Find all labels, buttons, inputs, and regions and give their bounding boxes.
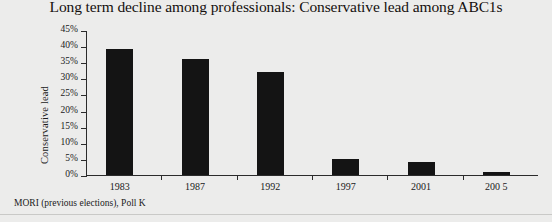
x-axis-tick-mark	[312, 176, 313, 180]
bar	[257, 72, 284, 175]
y-axis-tick-label: 15%	[61, 121, 78, 131]
bar	[106, 49, 133, 175]
x-axis-label: 2001	[386, 181, 456, 192]
y-axis-tick-label: 35%	[61, 56, 78, 66]
x-axis-label: 1983	[85, 181, 155, 192]
x-axis-label: 1987	[160, 181, 230, 192]
chart-axes: 0%5%10%15%20%25%30%35%40%45%	[86, 31, 538, 176]
y-axis-tick-label: 5%	[65, 153, 78, 163]
bar	[332, 159, 359, 175]
bar-series	[86, 30, 538, 175]
x-axis-label: 200 5	[461, 181, 531, 192]
y-axis-tick-label: 40%	[61, 40, 78, 50]
y-axis-tick-label: 25%	[61, 88, 78, 98]
y-axis-tick-label: 45%	[61, 24, 78, 34]
x-axis-tick-mark	[161, 176, 162, 180]
x-axis-tick-mark	[387, 176, 388, 180]
source-note: MORI (previous elections), Poll K	[14, 198, 146, 208]
chart-plot-area: Conservative lead 0%5%10%15%20%25%30%35%…	[0, 18, 552, 203]
x-axis-label: 1992	[235, 181, 305, 192]
x-axis-tick-mark	[237, 176, 238, 180]
y-axis-title: Conservative lead	[39, 70, 53, 180]
y-axis-tick-label: 30%	[61, 72, 78, 82]
x-axis-label: 1997	[311, 181, 381, 192]
y-axis-tick-label: 0%	[65, 169, 78, 179]
bottom-divider	[0, 214, 552, 215]
bar	[408, 162, 435, 175]
y-axis-tick-label: 10%	[61, 137, 78, 147]
x-axis-tick-mark	[463, 176, 464, 180]
y-axis-tick-mark	[81, 176, 86, 177]
bar	[483, 172, 510, 175]
bar	[182, 59, 209, 175]
page-title: Long term decline among professionals: C…	[0, 0, 552, 16]
y-axis-tick-label: 20%	[61, 105, 78, 115]
x-axis-labels: 19831987199219972001200 5	[86, 181, 538, 197]
